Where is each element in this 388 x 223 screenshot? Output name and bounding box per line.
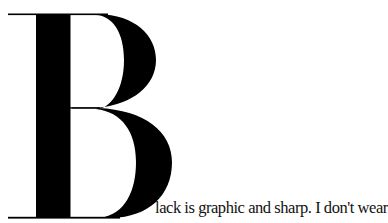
article-body-text: lack is graphic and sharp. I don't wear	[155, 199, 388, 217]
drop-cap-letter-b: B	[0, 0, 180, 223]
